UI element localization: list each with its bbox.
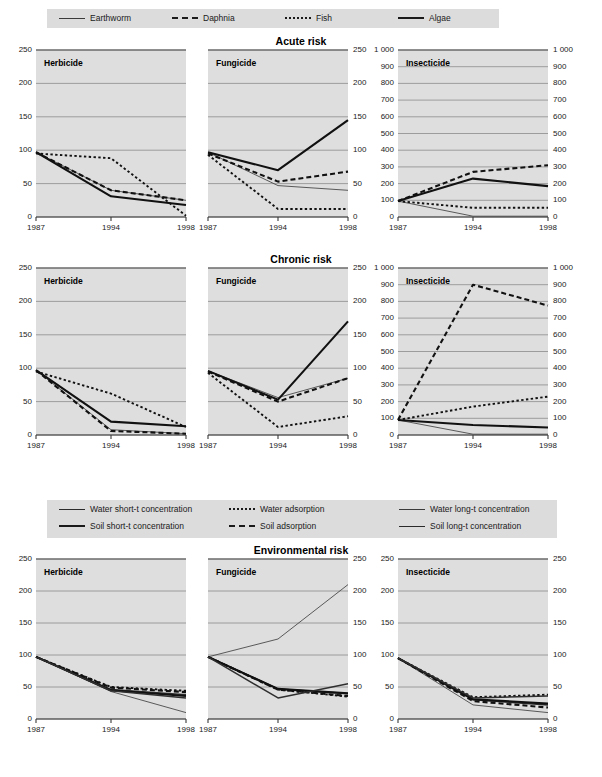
panel-label-insecticide: Insecticide [406, 567, 450, 577]
plot-area [398, 559, 548, 719]
y-axis-tick-label: 250 [364, 554, 394, 563]
y-axis-tick-label: 150 [364, 618, 394, 627]
y-axis-tick-label: 50 [364, 682, 394, 691]
x-axis-tick-label: 1987 [381, 725, 415, 734]
y-axis-tick-label: 0 [364, 714, 394, 723]
y-axis-tick-label: 150 [553, 618, 583, 627]
x-axis-tick-label: 1994 [456, 725, 490, 734]
y-axis-tick-label: 0 [553, 714, 583, 723]
x-axis-tick-label: 1998 [531, 725, 565, 734]
y-axis-tick-label: 200 [553, 586, 583, 595]
y-axis-tick-label: 100 [364, 650, 394, 659]
y-axis-tick-label: 100 [553, 650, 583, 659]
y-axis-tick-label: 250 [553, 554, 583, 563]
y-axis-tick-label: 50 [553, 682, 583, 691]
chart-panel-environmental-risk-insecticide: Insecticide05010015020025005010015020025… [0, 0, 602, 777]
y-axis-tick-label: 200 [364, 586, 394, 595]
